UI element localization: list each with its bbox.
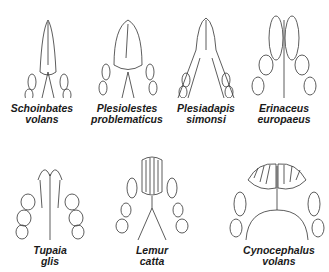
panel-tupaia (10, 160, 90, 240)
jaw-drawing-plesiadapis (170, 10, 240, 98)
label-lemur: Lemur catta (112, 245, 192, 267)
jaw-drawing-schoinbates (12, 10, 82, 98)
jaw-drawing-erinaceus (246, 10, 322, 98)
panel-erinaceus (246, 10, 322, 98)
label-plesiadapis: Plesiadapis simonsi (166, 103, 246, 125)
panel-plesiolestes (92, 10, 162, 98)
panel-cynocephalus (228, 152, 326, 240)
panel-lemur (112, 152, 192, 240)
jaw-drawing-lemur (112, 152, 192, 240)
panel-schoinbates (12, 10, 82, 98)
label-tupaia: Tupaia glis (10, 245, 90, 267)
jaw-drawing-plesiolestes (92, 10, 162, 98)
jaw-drawing-cynocephalus (228, 152, 326, 240)
label-plesiolestes: Plesiolestes problematicus (84, 103, 170, 125)
label-cynocephalus: Cynocephalus volans (234, 245, 324, 267)
label-erinaceus: Erinaceus europaeus (244, 103, 324, 125)
jaw-drawing-tupaia (10, 160, 90, 240)
label-schoinbates: Schoinbates volans (2, 103, 82, 125)
panel-plesiadapis (170, 10, 240, 98)
